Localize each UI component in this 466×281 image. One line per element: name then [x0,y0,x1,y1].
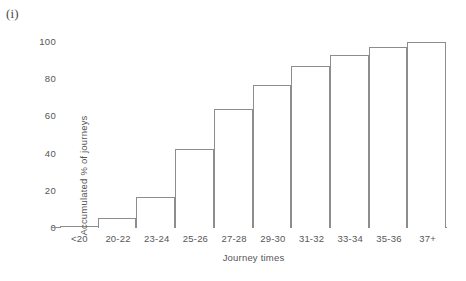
axis-origin-stub [52,227,60,228]
y-axis-tick-labels: 020406080100 [12,0,56,281]
x-tick-label: 35-36 [370,232,409,246]
x-tick-label: 25-26 [176,232,215,246]
bar[interactable] [407,42,446,228]
bar-cell [331,42,370,228]
bar[interactable] [136,197,175,228]
bar-cell [137,42,176,228]
x-tick-label: 27-28 [215,232,254,246]
x-axis-tick-labels: <2020-2223-2425-2627-2829-3031-3233-3435… [60,232,447,246]
figure-panel: (i) 020406080100 Accumulated % of journe… [0,0,466,281]
bar[interactable] [214,109,253,228]
y-tick-label: 80 [22,74,56,84]
bar-cell [408,42,447,228]
bar[interactable] [330,55,369,228]
x-tick-label: 31-32 [292,232,331,246]
plot-area: Accumulated % of journeys [60,42,447,228]
x-tick-label: 37+ [408,232,447,246]
x-tick-label: 33-34 [331,232,370,246]
bar[interactable] [253,85,292,228]
bar-cell [254,42,293,228]
x-tick-label: <20 [60,232,99,246]
y-tick-label: 40 [22,149,56,159]
x-tick-label: 20-22 [99,232,138,246]
bar[interactable] [98,218,137,228]
bar[interactable] [175,149,214,228]
bar[interactable] [291,66,330,228]
bar-cell [99,42,138,228]
bar-series [60,42,447,228]
y-tick-label: 60 [22,111,56,121]
x-tick-label: 23-24 [137,232,176,246]
x-tick-label: 29-30 [254,232,293,246]
y-tick-label: 100 [22,37,56,47]
y-tick-label: 20 [22,186,56,196]
bar-cell [292,42,331,228]
bar-cell [215,42,254,228]
bar-cell [370,42,409,228]
y-tick-label: 0 [22,223,56,233]
bar-cell [176,42,215,228]
x-axis-title: Journey times [60,252,447,263]
bar[interactable] [369,47,408,228]
